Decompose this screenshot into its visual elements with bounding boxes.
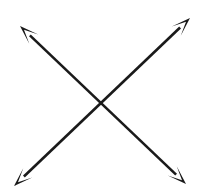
crossed-arrows-figure bbox=[0, 0, 198, 195]
